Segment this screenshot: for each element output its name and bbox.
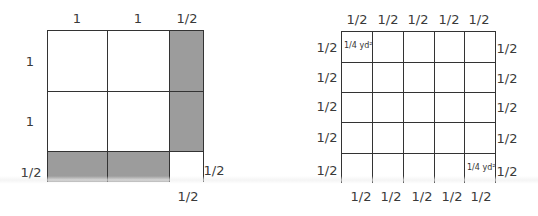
right-left-label-2: 1/2	[317, 70, 338, 85]
right-bottom-label-3: 1/2	[412, 189, 433, 204]
right-left-label-4: 1/2	[317, 130, 338, 145]
left-side-label-2: 1	[26, 114, 34, 129]
right-right-label-2: 1/2	[497, 71, 518, 86]
right-right-label-3: 1/2	[497, 100, 518, 115]
right-bottom-label-4: 1/2	[442, 189, 463, 204]
left-cell-1-1	[107, 91, 170, 152]
right-left-label-3: 1/2	[317, 99, 338, 114]
right-top-label-3: 1/2	[408, 12, 429, 27]
left-top-label-3: 1/2	[177, 11, 198, 26]
right-top-label-4: 1/2	[439, 12, 460, 27]
cell-note-bottom-right: 1/4 yd²	[467, 163, 495, 172]
left-corner-bottom-label: 1/2	[178, 189, 199, 204]
left-top-label-2: 1	[134, 11, 142, 26]
left-cell-1-2-shaded	[169, 91, 204, 152]
left-cell-0-0	[47, 30, 108, 92]
scan-artifact-band	[0, 176, 538, 184]
right-bottom-label-2: 1/2	[381, 189, 402, 204]
right-top-label-2: 1/2	[378, 12, 399, 27]
left-top-label-1: 1	[73, 11, 81, 26]
left-side-label-1: 1	[26, 54, 34, 69]
left-cell-0-2-shaded	[169, 30, 204, 92]
right-top-label-5: 1/2	[469, 12, 490, 27]
right-bottom-label-5: 1/2	[471, 189, 492, 204]
cell-note-top-left: 1/4 yd²	[344, 41, 372, 50]
right-right-label-1: 1/2	[497, 41, 518, 56]
left-cell-0-1	[107, 30, 170, 92]
right-right-label-4: 1/2	[497, 131, 518, 146]
right-left-label-1: 1/2	[317, 40, 338, 55]
right-grid	[341, 31, 496, 183]
right-bottom-label-1: 1/2	[351, 189, 372, 204]
right-top-label-1: 1/2	[347, 12, 368, 27]
left-cell-1-0	[47, 91, 108, 152]
